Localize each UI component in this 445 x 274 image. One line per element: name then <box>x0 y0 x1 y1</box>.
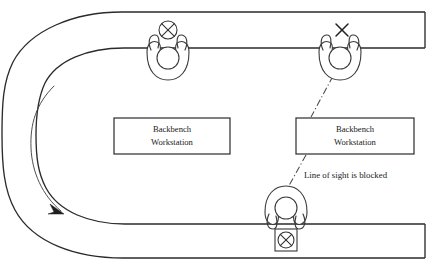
workstation-left-label-line2: Workstation <box>151 137 193 147</box>
diagram-canvas: Backbench Workstation Backbench Workstat… <box>0 0 445 274</box>
person-bottom-head <box>275 197 297 219</box>
person-top-left-head <box>157 47 179 69</box>
person-top-left[interactable] <box>147 21 189 80</box>
sight-line-upper-segment <box>311 76 333 117</box>
diagram-root: Backbench Workstation Backbench Workstat… <box>0 0 445 274</box>
person-top-right[interactable] <box>319 24 361 80</box>
workstation-right[interactable]: Backbench Workstation <box>296 118 414 154</box>
person-top-right-head <box>329 47 351 69</box>
person-bottom[interactable] <box>265 186 307 251</box>
flow-arrow-curve <box>31 86 61 211</box>
boxed-circled-x-icon <box>275 229 297 251</box>
plain-x-icon <box>336 24 348 36</box>
workstation-right-label-line1: Backbench <box>336 124 375 134</box>
workstation-left[interactable]: Backbench Workstation <box>114 118 230 154</box>
workstation-left-label-line1: Backbench <box>153 124 192 134</box>
workstation-right-label-line2: Workstation <box>334 137 376 147</box>
circled-x-icon <box>159 21 177 39</box>
line-of-sight-note: Line of sight is blocked <box>304 170 388 180</box>
